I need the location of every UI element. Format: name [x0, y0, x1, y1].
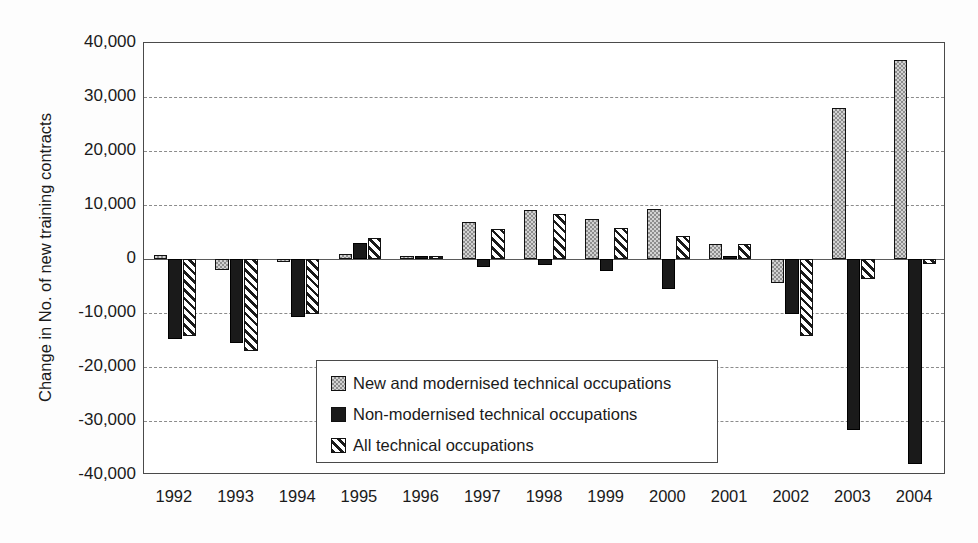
legend-label: All technical occupations [353, 437, 534, 454]
bar-group-2003 [823, 43, 885, 473]
bar-1999-series-1 [585, 219, 599, 260]
bar-1993-series-1 [215, 259, 229, 270]
x-tick-label: 2001 [698, 487, 760, 506]
x-tick-label: 1999 [575, 487, 637, 506]
bar-1994-series-3 [306, 259, 320, 314]
y-tick-label: 20,000 [36, 141, 136, 158]
bar-1996-series-3 [429, 256, 443, 259]
bar-2002-series-1 [771, 259, 785, 283]
x-tick-label: 1995 [328, 487, 390, 506]
bar-2004-series-1 [894, 60, 908, 259]
x-tick-label: 1992 [143, 487, 205, 506]
bar-2001-series-1 [709, 244, 723, 259]
x-tick-label: 2002 [760, 487, 822, 506]
bar-1999-series-2 [600, 259, 614, 271]
x-tick-label: 1997 [451, 487, 513, 506]
x-axis-tick-labels: 1992199319941995199619971998199920002001… [143, 487, 945, 515]
bar-group-2004 [884, 43, 946, 473]
bar-1996-series-1 [400, 256, 414, 259]
bar-1997-series-1 [462, 222, 476, 259]
bar-2004-series-3 [923, 259, 937, 264]
x-tick-label: 1996 [390, 487, 452, 506]
bar-1997-series-3 [491, 229, 505, 259]
x-tick-label: 2004 [883, 487, 945, 506]
bar-2002-series-3 [800, 259, 814, 336]
bar-2001-series-3 [738, 244, 752, 259]
legend-item[interactable]: Non-modernised technical occupations [331, 399, 717, 430]
bar-1992-series-2 [168, 259, 182, 339]
bar-1994-series-2 [291, 259, 305, 317]
legend-label: New and modernised technical occupations [353, 375, 671, 392]
legend-swatch-icon [331, 438, 346, 453]
legend-item[interactable]: New and modernised technical occupations [331, 368, 717, 399]
y-tick-label: 10,000 [36, 195, 136, 212]
legend-swatch-icon [331, 376, 346, 391]
bar-1992-series-3 [183, 259, 197, 336]
y-tick-label: -20,000 [36, 357, 136, 374]
legend-item[interactable]: All technical occupations [331, 430, 717, 461]
bar-2001-series-2 [723, 256, 737, 259]
bar-1995-series-1 [339, 254, 353, 259]
y-tick-label: 40,000 [36, 33, 136, 50]
bar-2000-series-2 [662, 259, 676, 289]
x-tick-label: 2003 [822, 487, 884, 506]
bar-2003-series-1 [832, 108, 846, 259]
y-tick-label: -10,000 [36, 303, 136, 320]
x-tick-label: 1994 [266, 487, 328, 506]
bar-2000-series-1 [647, 209, 661, 259]
bar-1995-series-2 [353, 243, 367, 259]
bar-1998-series-3 [553, 214, 567, 259]
y-tick-label: 30,000 [36, 87, 136, 104]
y-axis-tick-labels: 40,00030,00020,00010,0000-10,000-20,000-… [28, 0, 136, 543]
bar-1992-series-1 [154, 255, 168, 259]
x-tick-label: 1993 [205, 487, 267, 506]
y-tick-label: -40,000 [36, 465, 136, 482]
bar-1993-series-3 [244, 259, 258, 351]
bar-1998-series-2 [538, 259, 552, 265]
x-tick-label: 1998 [513, 487, 575, 506]
bar-2004-series-2 [908, 259, 922, 464]
x-tick-label: 2000 [637, 487, 699, 506]
y-tick-label: 0 [36, 249, 136, 266]
bar-1997-series-2 [477, 259, 491, 267]
bar-2003-series-3 [861, 259, 875, 279]
legend: New and modernised technical occupations… [316, 360, 718, 463]
bar-group-1993 [206, 43, 268, 473]
legend-label: Non-modernised technical occupations [353, 406, 637, 423]
bar-group-1992 [144, 43, 206, 473]
bar-1998-series-1 [524, 210, 538, 259]
bar-2000-series-3 [676, 236, 690, 259]
bar-1993-series-2 [230, 259, 244, 343]
bar-1994-series-1 [277, 259, 291, 262]
bar-2003-series-2 [847, 259, 861, 430]
bar-1996-series-2 [415, 256, 429, 259]
legend-swatch-icon [331, 407, 346, 422]
bar-1995-series-3 [368, 238, 382, 259]
y-tick-label: -30,000 [36, 411, 136, 428]
bar-1999-series-3 [614, 228, 628, 259]
bar-chart: Change in No. of new training contracts … [0, 0, 978, 543]
bar-group-2002 [761, 43, 823, 473]
bar-2002-series-2 [785, 259, 799, 314]
